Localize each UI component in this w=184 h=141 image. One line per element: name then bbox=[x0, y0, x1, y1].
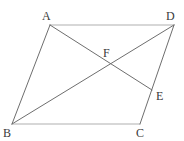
segment-layer bbox=[12, 25, 174, 124]
vertex-label-b: B bbox=[3, 127, 11, 139]
vertex-label-d: D bbox=[166, 10, 175, 22]
vertex-label-c: C bbox=[136, 127, 144, 139]
vertex-label-f: F bbox=[103, 47, 110, 59]
figure-canvas bbox=[0, 0, 184, 141]
segment-AE bbox=[50, 25, 152, 90]
vertex-label-a: A bbox=[42, 10, 51, 22]
geometry-figure: ADBCEF bbox=[0, 0, 184, 141]
vertex-label-e: E bbox=[156, 90, 163, 102]
segment-DC bbox=[140, 25, 174, 124]
segment-BD bbox=[12, 25, 174, 124]
segment-AB bbox=[12, 25, 50, 124]
